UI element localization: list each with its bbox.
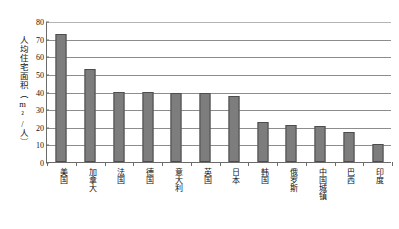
y-axis-tick-label: 80 — [24, 18, 44, 27]
x-axis-tick-mark — [220, 162, 221, 166]
x-axis-tick-mark — [191, 162, 192, 166]
bar-slot — [335, 22, 364, 162]
bar[interactable] — [142, 92, 153, 163]
x-axis-category-label: 韩国 — [255, 168, 269, 184]
y-axis-tick-mark — [46, 163, 49, 164]
bar[interactable] — [171, 93, 182, 162]
y-axis-tick-mark — [46, 57, 49, 58]
y-axis-tick-mark — [46, 127, 49, 128]
x-axis-tick-mark — [133, 162, 134, 166]
bar-slot — [133, 22, 162, 162]
x-axis-tick-mark — [105, 162, 106, 166]
x-axis-category-label: 日本 — [226, 168, 240, 184]
x-axis-category-label: 中国城镇 — [312, 168, 326, 200]
bar-slot — [191, 22, 220, 162]
y-axis-tick-mark — [46, 92, 49, 93]
y-axis-tick-mark — [46, 39, 49, 40]
x-axis-labels: 美国加拿大法国德国意大利英国日本韩国俄罗斯中国城镇巴西印度 — [46, 168, 391, 226]
bar-series — [47, 22, 391, 162]
bar[interactable] — [85, 69, 96, 162]
x-axis-category-label: 印度 — [370, 168, 384, 184]
bar-slot — [105, 22, 134, 162]
x-axis-tick-mark — [76, 162, 77, 166]
y-axis-tick-mark — [46, 145, 49, 146]
y-axis-tick-label: 30 — [24, 106, 44, 115]
y-axis-tick-label: 0 — [24, 159, 44, 168]
bar-slot — [162, 22, 191, 162]
x-axis-category-label: 巴西 — [341, 168, 355, 184]
bar[interactable] — [286, 125, 297, 162]
bar-chart: 人均住宅面积（m²/人） 01020304050607080 美国加拿大法国德国… — [0, 0, 399, 229]
bar-slot — [306, 22, 335, 162]
y-axis-tick-label: 10 — [24, 141, 44, 150]
x-axis-tick-mark — [162, 162, 163, 166]
y-axis-tick-label: 60 — [24, 53, 44, 62]
plot-area — [46, 22, 391, 163]
x-axis-category-label: 法国 — [111, 168, 125, 184]
x-axis-tick-mark — [363, 162, 364, 166]
x-axis-tick-mark — [248, 162, 249, 166]
bar[interactable] — [315, 126, 326, 162]
y-axis-tick-label: 20 — [24, 123, 44, 132]
y-axis-tick-label: 40 — [24, 88, 44, 97]
x-axis-category-label: 美国 — [53, 168, 67, 184]
bar-slot — [76, 22, 105, 162]
x-axis-tick-mark — [335, 162, 336, 166]
x-axis-tick-mark — [306, 162, 307, 166]
y-axis-tick-mark — [46, 110, 49, 111]
x-axis-tick-mark — [392, 162, 393, 166]
bar-slot — [277, 22, 306, 162]
bar-slot — [47, 22, 76, 162]
x-axis-category-label: 意大利 — [168, 168, 182, 192]
y-axis-tick-label: 70 — [24, 35, 44, 44]
bar[interactable] — [257, 122, 268, 162]
bar-slot — [220, 22, 249, 162]
x-axis-category-label: 德国 — [140, 168, 154, 184]
bar[interactable] — [200, 93, 211, 162]
x-axis-category-label: 俄罗斯 — [283, 168, 297, 192]
y-axis-tick-mark — [46, 74, 49, 75]
y-axis-tick-label: 50 — [24, 70, 44, 79]
x-axis-tick-mark — [277, 162, 278, 166]
bar[interactable] — [343, 132, 354, 162]
x-axis-category-label: 加拿大 — [82, 168, 96, 192]
bar-slot — [248, 22, 277, 162]
bar[interactable] — [113, 92, 124, 163]
x-axis-category-label: 英国 — [197, 168, 211, 184]
bar-slot — [363, 22, 392, 162]
y-axis-tick-mark — [46, 22, 49, 23]
bar[interactable] — [372, 144, 383, 162]
bar[interactable] — [56, 34, 67, 162]
bar[interactable] — [228, 96, 239, 162]
